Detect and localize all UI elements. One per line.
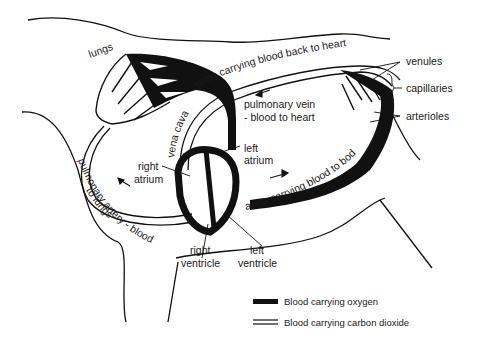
label-right-atrium-2: atrium xyxy=(134,173,163,185)
legend: Blood carrying oxygen Blood carrying car… xyxy=(253,296,409,328)
label-arterioles: arterioles xyxy=(406,110,449,122)
legend-co2-symbol xyxy=(253,320,278,324)
label-right-atrium-1: right xyxy=(138,160,159,172)
legend-co2-label: Blood carrying carbon dioxide xyxy=(284,317,409,328)
label-left-ventricle-1: left xyxy=(250,244,264,256)
label-left-atrium-1: left xyxy=(244,142,258,154)
label-pulmonary-vein-2: - blood to heart xyxy=(244,111,315,123)
label-right-ventricle-1: right xyxy=(190,244,211,256)
label-venules: venules xyxy=(406,55,442,67)
legend-oxygen-symbol xyxy=(253,299,278,304)
label-left-ventricle-2: ventricle xyxy=(238,257,277,269)
label-left-atrium-2: atrium xyxy=(244,154,273,166)
capillaries xyxy=(250,70,394,210)
label-pulmonary-vein-1: pulmonary vein xyxy=(244,98,315,110)
label-lungs: lungs xyxy=(87,40,115,60)
circulatory-diagram: lungs veins carrying blood back to heart… xyxy=(0,0,478,349)
label-right-ventricle-2: ventricle xyxy=(181,257,220,269)
legend-oxygen-label: Blood carrying oxygen xyxy=(284,296,378,307)
label-capillaries: capillaries xyxy=(406,82,453,94)
heart xyxy=(178,150,236,232)
